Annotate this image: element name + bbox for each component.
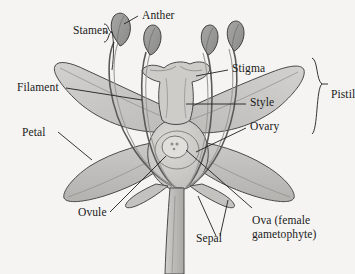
label-ovary: Ovary (250, 120, 279, 134)
anther-4 (227, 21, 244, 51)
anther-1 (111, 13, 130, 46)
stem (165, 188, 184, 274)
label-style: Style (250, 96, 274, 110)
leader-sepal-a (198, 196, 216, 236)
label-filament: Filament (17, 81, 59, 95)
label-anther: Anther (142, 9, 175, 23)
ovule (162, 136, 188, 158)
label-ova: Ova (female gametophyte) (252, 214, 348, 241)
label-pistil: Pistil (331, 88, 355, 102)
label-ovule: Ovule (78, 206, 107, 220)
label-petal: Petal (22, 126, 46, 140)
label-stamen: Stamen (73, 24, 108, 38)
label-stigma: Stigma (232, 62, 265, 76)
sepal-left (125, 184, 168, 208)
sepal-right (190, 184, 235, 208)
anther-3 (201, 25, 218, 55)
pistil-bracket (312, 58, 328, 134)
leader-petal (58, 132, 92, 160)
label-sepal: Sepal (196, 232, 222, 246)
anther-2 (144, 25, 161, 55)
flower-anatomy-figure: Stamen Anther Filament Petal Ovule Sepal… (0, 0, 355, 274)
